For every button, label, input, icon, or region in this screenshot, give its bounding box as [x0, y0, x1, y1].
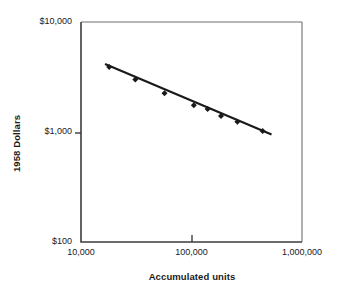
data-series-group	[105, 64, 272, 134]
y-axis-title: 1958 Dollars	[11, 104, 22, 184]
y-tick-label: $100	[10, 236, 72, 246]
axis-frame	[81, 22, 302, 242]
trend-line	[105, 64, 272, 134]
x-tick-label: 1,000,000	[257, 247, 343, 257]
x-tick-label: 100,000	[147, 247, 237, 257]
x-axis-title: Accumulated units	[81, 271, 303, 282]
x-tick-label: 10,000	[36, 247, 126, 257]
chart-figure: 1958 Dollars Accumulated units $100$1,00…	[0, 0, 343, 296]
y-tick-label: $1,000	[10, 126, 72, 136]
y-tick-label: $10,000	[10, 16, 72, 26]
